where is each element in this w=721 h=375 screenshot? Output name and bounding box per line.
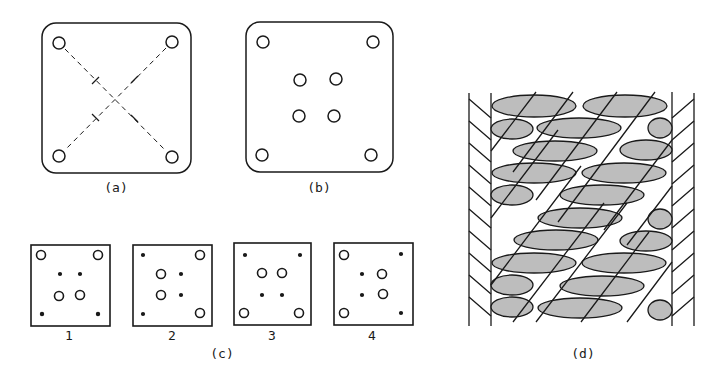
card-2-number: 2 <box>162 328 182 343</box>
panel-b-card <box>246 22 393 172</box>
panel-c-card-4 <box>334 243 413 325</box>
panel-c-card-1 <box>31 245 110 326</box>
panel-d-weave <box>469 92 694 326</box>
card-3-number: 3 <box>262 328 282 343</box>
panel-b-label: (b) <box>289 180 349 195</box>
panel-a-label: (a) <box>86 180 146 195</box>
card-1-number: 1 <box>59 328 79 343</box>
panel-c-card-2 <box>133 245 212 326</box>
panel-c-label: (c) <box>192 346 252 361</box>
panel-c-card-3 <box>234 243 311 325</box>
card-4-number: 4 <box>362 328 382 343</box>
panel-a-card <box>42 23 191 173</box>
panel-d-label: (d) <box>553 346 613 361</box>
